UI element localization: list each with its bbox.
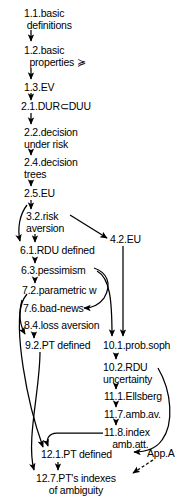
node-app-a: App.A xyxy=(147,448,175,460)
node-6-1-rdu-defined: 6.1.RDU defined xyxy=(20,245,95,257)
node-2-5-eu: 2.5.EU xyxy=(24,188,55,200)
node-11-7-amb-av: 11.7.amb.av. xyxy=(104,409,161,421)
node-7-2-parametric-w: 7.2.parametric w xyxy=(22,285,96,297)
node-7-6-bad-news: 7.6.bad-news xyxy=(23,303,84,315)
node-6-3-pessimism: 6.3.pessimism xyxy=(21,265,86,277)
node-9-2-pt-defined: 9.2.PT defined xyxy=(25,340,90,352)
edge-9-2-to-12-7 xyxy=(32,352,40,470)
node-4-2-eu: 4.2.EU xyxy=(110,234,141,246)
edge-3-2-to-4-2 xyxy=(70,215,107,238)
node-11-1-ellsberg: 11.1.Ellsberg xyxy=(104,391,162,403)
node-2-1-dur-subset-duu: 2.1.DUR⊂DUU xyxy=(21,101,91,113)
node-12-7-pts-indexes-of-ambiguity: 12.7.PT's indexes of ambiguity xyxy=(36,473,116,496)
node-8-4-loss-aversion: 8.4.loss aversion xyxy=(24,320,99,332)
edge-app-a-to-12-7 xyxy=(133,460,153,473)
node-1-1-basic-definitions: 1.1.basic definitions xyxy=(24,8,72,31)
node-1-2-basic-properties: 1.2.basic properties ≽ xyxy=(24,45,86,68)
node-10-2-rdu-uncertainty: 10.2.RDU uncertainty xyxy=(103,362,152,385)
node-3-2-risk-aversion: 3.2.risk aversion xyxy=(26,211,64,234)
node-2-2-decision-under-risk: 2.2.decision under risk xyxy=(24,127,78,150)
node-2-4-decision-trees: 2.4.decision trees xyxy=(24,157,78,180)
node-10-1-prob-soph: 10.1.prob.soph xyxy=(103,340,170,352)
flowchart-diagram: 1.1.basic definitions 1.2.basic properti… xyxy=(0,0,189,504)
node-1-3-ev: 1.3.EV xyxy=(24,82,54,94)
node-12-1-pt-defined: 12.1.PT defined xyxy=(41,449,112,461)
node-11-8-index-amb-att: 11.8.index amb.att. xyxy=(104,427,150,450)
edge-11-8-to-12-1 xyxy=(47,433,103,446)
